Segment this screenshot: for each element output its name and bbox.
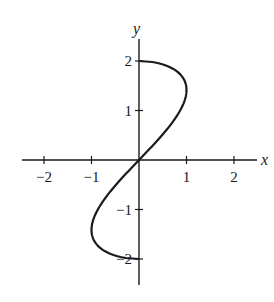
x-tick-label: −1: [84, 169, 100, 185]
x-tick-label: −2: [36, 169, 52, 185]
x-tick-label: 2: [230, 169, 238, 185]
y-axis-label: y: [131, 20, 141, 38]
y-tick-label: 1: [125, 103, 133, 119]
plot-area: −2−112−2−112 x y: [0, 0, 274, 302]
x-tick-label: 1: [183, 169, 191, 185]
axes: [22, 39, 257, 285]
y-tick-label: −1: [116, 202, 132, 218]
x-axis-label: x: [260, 151, 268, 168]
y-tick-label: 2: [125, 53, 133, 69]
